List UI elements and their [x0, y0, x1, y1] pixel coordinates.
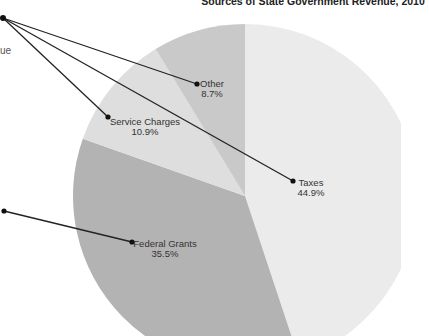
clipped-text-fragment: ue: [0, 45, 11, 56]
label-federal-grants: Federal Grants 35.5%: [133, 239, 196, 259]
label-service-charges-value: 10.9%: [110, 127, 180, 137]
label-taxes-value: 44.9%: [298, 188, 325, 198]
label-other-value: 8.7%: [200, 89, 224, 99]
label-federal-grants-value: 35.5%: [133, 249, 196, 259]
label-other: Other 8.7%: [200, 79, 224, 99]
label-taxes: Taxes 44.9%: [298, 178, 325, 198]
chart-title: Sources of State Government Revenue, 201…: [183, 0, 429, 7]
pie-slices: [73, 24, 401, 336]
label-service-charges: Service Charges 10.9%: [110, 117, 180, 137]
